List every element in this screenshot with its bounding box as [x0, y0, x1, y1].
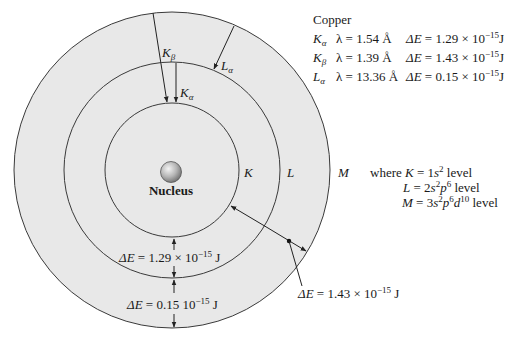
table-row-k-beta: Kβ λ = 1.39 Å ΔE = 1.43 × 10−15J [312, 49, 504, 68]
table-row-l-alpha: Lα λ = 13.36 Å ΔE = 0.15 × 10−15J [312, 68, 504, 87]
shell-label-m: M [337, 165, 350, 180]
gap-km-label: ΔE = 1.43 × 10−15 J [297, 285, 399, 301]
diagram-canvas: Nucleus K L M Kβ Kα Lα ΔE = 1.29 × 10−15… [0, 0, 520, 337]
nucleus-label: Nucleus [149, 183, 193, 198]
shell-label-l: L [286, 165, 294, 180]
copper-xray-shell-diagram: Nucleus K L M Kβ Kα Lα ΔE = 1.29 × 10−15… [0, 0, 520, 337]
shell-def-m: M = 3s2p6d10 level [401, 194, 498, 210]
shell-def-k: where K = 1s2 level [370, 164, 472, 180]
emission-lines-table: Copper Kα λ = 1.54 Å ΔE = 1.29 × 10−15J … [312, 12, 504, 87]
shell-def-l: L = 2s2p6 level [402, 179, 480, 195]
shell-definitions: where K = 1s2 level L = 2s2p6 level M = … [370, 164, 498, 210]
table-title: Copper [313, 12, 352, 27]
nucleus-sphere-icon [161, 162, 182, 183]
table-row-k-alpha: Kα λ = 1.54 Å ΔE = 1.29 × 10−15J [312, 30, 504, 49]
shell-label-k: K [243, 165, 254, 180]
